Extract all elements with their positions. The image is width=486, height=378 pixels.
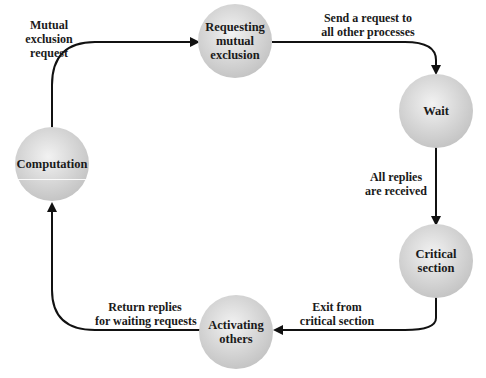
node-label: others xyxy=(208,332,264,346)
edge-label-return-replies: Return replies for waiting requests xyxy=(95,300,195,328)
edge-requesting-to-wait xyxy=(272,42,436,73)
edge-label-line: exclusion xyxy=(14,32,84,46)
edge-label-send-request: Send a request to all other processes xyxy=(298,11,438,39)
edge-label-line: Exit from xyxy=(272,300,402,314)
node-label: Requesting xyxy=(205,20,265,34)
edge-label-mutual-exclusion-request: Mutual exclusion request xyxy=(14,18,84,60)
node-activating-others: Activating others xyxy=(199,295,273,369)
node-label: Wait xyxy=(423,104,449,118)
edge-label-line: critical section xyxy=(272,314,402,328)
edge-label-line: All replies xyxy=(361,170,431,184)
edge-label-line: Send a request to xyxy=(298,11,438,25)
node-wait: Wait xyxy=(399,74,473,148)
edge-label-line: request xyxy=(14,46,84,60)
node-label: section xyxy=(416,261,457,275)
edge-label-line: for waiting requests xyxy=(95,314,195,328)
node-label: Critical xyxy=(416,247,457,261)
node-requesting-mutual-exclusion: Requesting mutual exclusion xyxy=(198,4,272,78)
edge-label-line: all other processes xyxy=(298,25,438,39)
node-label: mutual xyxy=(205,34,265,48)
node-computation: Computation xyxy=(15,127,89,201)
node-critical-section: Critical section xyxy=(399,224,473,298)
edge-label-line: Return replies xyxy=(95,300,195,314)
edge-label-line: Mutual xyxy=(14,18,84,32)
edge-label-exit-critical-section: Exit from critical section xyxy=(272,300,402,328)
node-label: exclusion xyxy=(205,48,265,62)
edge-label-line: are received xyxy=(361,184,431,198)
node-label: Computation xyxy=(17,157,88,171)
edge-label-all-replies-received: All replies are received xyxy=(361,170,431,198)
node-label: Activating xyxy=(208,318,264,332)
computation-highlight-line xyxy=(18,179,86,180)
